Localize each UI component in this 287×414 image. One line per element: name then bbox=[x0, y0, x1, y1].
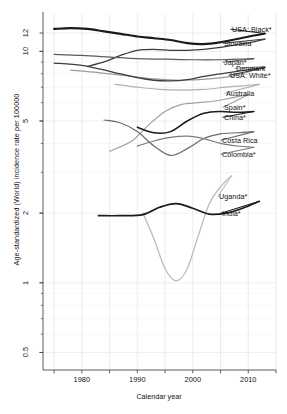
x-tick-label: 2000 bbox=[177, 375, 209, 384]
series-label: USA: Black* bbox=[232, 25, 272, 34]
x-tick-label: 1990 bbox=[121, 375, 153, 384]
y-tick-label: 2 bbox=[20, 200, 32, 226]
y-axis-title: Age-standardized (World) incidence rate … bbox=[12, 85, 21, 275]
y-tick-label: 0.5 bbox=[20, 339, 32, 365]
y-tick-label: 12 bbox=[20, 20, 32, 46]
x-tick-label: 1980 bbox=[66, 375, 98, 384]
series-label: USA: White* bbox=[230, 71, 271, 80]
x-axis-title: Calendar year bbox=[43, 392, 275, 401]
series-label: Spain* bbox=[224, 103, 245, 112]
y-tick-label: 1 bbox=[20, 270, 32, 296]
series-label: China* bbox=[224, 113, 246, 122]
series-label: Slovakia bbox=[224, 39, 252, 48]
series-label: India* bbox=[222, 209, 241, 218]
y-tick-label: 5 bbox=[20, 108, 32, 134]
series-label: Costa Rica bbox=[222, 136, 258, 145]
chart-figure: 0.51251012 1980199020002010 USA: Black*S… bbox=[0, 0, 287, 414]
x-tick-label: 2010 bbox=[232, 375, 264, 384]
series-label: Australia bbox=[226, 89, 254, 98]
series-label: Colombia* bbox=[222, 150, 256, 159]
series-label: Uganda* bbox=[219, 192, 247, 201]
